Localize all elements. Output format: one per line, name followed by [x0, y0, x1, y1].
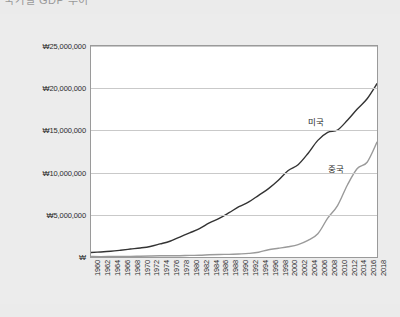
x-tick-label: 2002: [300, 260, 309, 276]
x-tick-label: 1988: [231, 260, 240, 276]
y-tick-label: ₩: [79, 253, 86, 262]
plot-area: [90, 45, 378, 258]
x-tick-label: 1960: [93, 260, 102, 276]
gridline: [91, 88, 377, 89]
x-axis: 1960196219641966196819701972197419761978…: [90, 260, 378, 304]
x-tick-label: 1998: [281, 260, 290, 276]
series-label: 중국: [328, 162, 344, 174]
x-tick-label: 1970: [143, 260, 152, 276]
x-tick-label: 1984: [212, 260, 221, 276]
y-tick-label: ₩5,000,000: [47, 210, 86, 219]
x-tick-label: 1996: [271, 260, 280, 276]
x-tick-label: 1994: [261, 260, 270, 276]
y-tick-label: ₩10,000,000: [42, 168, 86, 177]
x-tick-label: 2012: [350, 260, 359, 276]
x-tick-label: 2000: [290, 260, 299, 276]
gridline: [91, 46, 377, 47]
series-lines: [91, 46, 377, 257]
x-tick-label: 1976: [172, 260, 181, 276]
x-tick-label: 2018: [379, 260, 388, 276]
series-line: [91, 142, 377, 256]
x-tick-label: 1968: [133, 260, 142, 276]
x-tick-label: 2014: [359, 260, 368, 276]
x-tick-label: 2010: [340, 260, 349, 276]
series-label: 미국: [308, 115, 324, 127]
x-tick-label: 1978: [182, 260, 191, 276]
x-tick-label: 1972: [152, 260, 161, 276]
y-tick-label: ₩25,000,000: [42, 42, 86, 51]
x-tick-label: 2016: [369, 260, 378, 276]
y-tick-label: ₩20,000,000: [42, 84, 86, 93]
gridline: [91, 215, 377, 216]
x-tick-label: 2004: [310, 260, 319, 276]
x-tick-label: 1966: [123, 260, 132, 276]
gridline: [91, 130, 377, 131]
x-tick-label: 1962: [103, 260, 112, 276]
page-title: 국가별 GDP 추이: [4, 0, 89, 7]
x-tick-label: 1964: [113, 260, 122, 276]
x-tick-label: 1990: [241, 260, 250, 276]
y-tick-label: ₩15,000,000: [42, 126, 86, 135]
x-tick-label: 1982: [202, 260, 211, 276]
x-tick-label: 1986: [221, 260, 230, 276]
y-axis: ₩25,000,000₩20,000,000₩15,000,000₩10,000…: [0, 45, 86, 258]
x-tick-label: 1992: [251, 260, 260, 276]
x-tick-label: 1980: [192, 260, 201, 276]
x-tick-label: 2008: [330, 260, 339, 276]
x-tick-label: 1974: [162, 260, 171, 276]
x-tick-label: 2006: [320, 260, 329, 276]
chart-card: ₩25,000,000₩20,000,000₩15,000,000₩10,000…: [0, 14, 400, 304]
